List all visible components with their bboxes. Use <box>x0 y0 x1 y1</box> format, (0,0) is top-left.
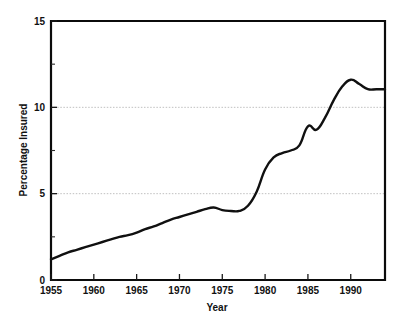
y-tick-label: 0 <box>39 275 45 286</box>
gridlines <box>51 107 385 193</box>
x-tick-label: 1970 <box>168 285 191 296</box>
y-axis-title: Percentage Insured <box>18 104 29 197</box>
line-chart: 19551960196519701975198019851990 151050 … <box>0 0 405 321</box>
x-tick-label: 1965 <box>126 285 149 296</box>
x-tick-label: 1975 <box>211 285 234 296</box>
horizontal-gridlines <box>51 107 385 193</box>
x-tick-label: 1980 <box>254 285 277 296</box>
y-tick-label: 10 <box>34 102 46 113</box>
y-tick-label: 15 <box>34 16 46 27</box>
x-tick-label: 1960 <box>83 285 106 296</box>
x-tick-label: 1985 <box>297 285 320 296</box>
data-series-group <box>51 80 385 260</box>
y-axis-tick-labels: 151050 <box>34 16 46 286</box>
chart-container: 19551960196519701975198019851990 151050 … <box>0 0 405 321</box>
x-axis-title: Year <box>206 302 227 313</box>
y-tick-label: 5 <box>39 188 45 199</box>
x-tick-label: 1955 <box>40 285 63 296</box>
x-axis-tick-labels: 19551960196519701975198019851990 <box>40 285 362 296</box>
x-tick-label: 1990 <box>340 285 363 296</box>
series-percentage-insured <box>51 80 385 260</box>
